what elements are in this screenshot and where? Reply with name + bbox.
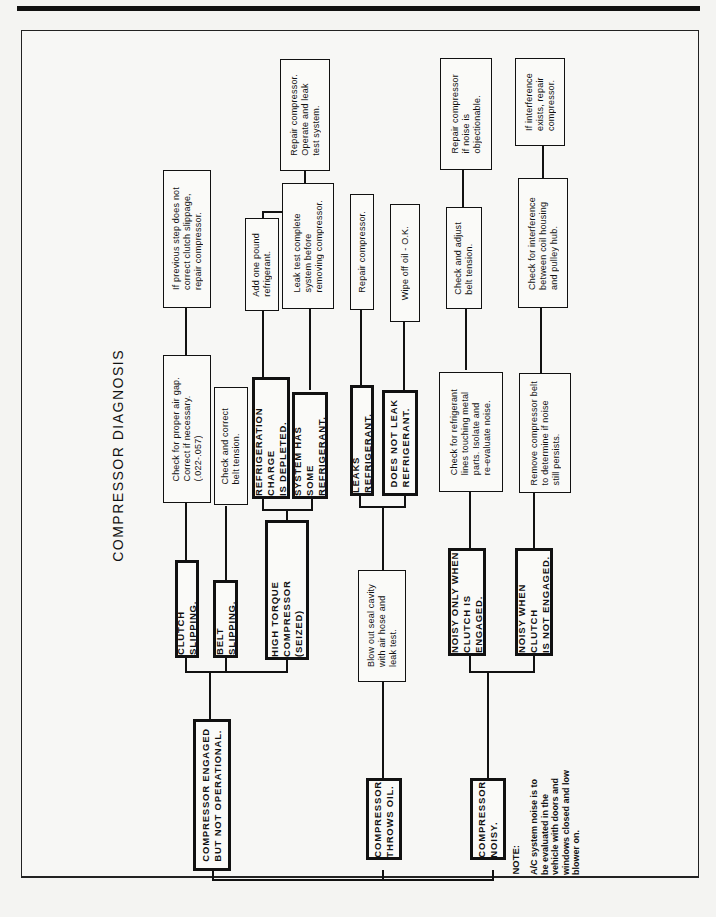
box-compressor-throws-oil: COMPRESSOR THROWS OIL. — [366, 778, 402, 860]
box-check-interference: Check for interference between coil hous… — [518, 178, 568, 308]
box-check-adjust-belt-tension: Check and adjust belt tension. — [446, 207, 482, 309]
box-remove-compressor-belt: Remove compressor belt to determine if n… — [519, 373, 571, 493]
box-add-one-pound: Add one pound refrigerant. — [245, 218, 279, 311]
box-compressor-noisy: COMPRESSOR NOISY. — [470, 778, 506, 860]
note: NOTE: A/C system noise is to be evaluate… — [510, 725, 620, 875]
box-check-correct-belt-tension: Check and correct belt tension. — [214, 387, 248, 505]
box-high-torque-compressor: HIGH TORQUE COMPRESSOR (SEIZED) — [265, 520, 309, 660]
box-repair-compressor: Repair compressor. — [350, 194, 374, 310]
box-compressor-engaged-not-operational: COMPRESSOR ENGAGED BUT NOT OPERATIONAL. — [193, 719, 231, 871]
box-leak-test-complete: Leak test complete system before removin… — [282, 183, 334, 309]
box-belt-slipping: BELT SLIPPING. — [213, 580, 238, 658]
note-text: A/C system noise is to be evaluated in t… — [529, 770, 582, 875]
box-system-has-some-refrigerant: SYSTEM HAS SOME REFRIGERANT. — [292, 392, 328, 499]
box-does-not-leak-refrigerant: DOES NOT LEAK REFRIGERANT. — [382, 390, 418, 496]
box-check-refrigerant-lines: Check for refrigerant lines touching met… — [439, 372, 503, 492]
box-clutch-slipping: CLUTCH SLIPPING. — [175, 560, 199, 658]
box-repair-if-objectionable: Repair compressor if noise is objectiona… — [440, 58, 492, 170]
box-noisy-when-not-engaged: NOISY WHEN CLUTCH IS NOT ENGAGED. — [515, 548, 553, 656]
diagram-title: COMPRESSOR DIAGNOSIS — [104, 355, 132, 555]
box-check-air-gap: Check for proper air gap. Correct if nec… — [163, 355, 211, 503]
box-wipe-off-oil: Wipe off oil - O.K. — [390, 204, 420, 322]
box-leaks-refrigerant: LEAKS REFRIGERANT. — [350, 385, 374, 496]
box-refrigeration-charge-depleted: REFRIGERATION CHARGE IS DEPLETED. — [252, 377, 290, 499]
box-if-interference-exists: If interference exists, repair compresso… — [515, 58, 565, 146]
box-blow-out-seal-cavity: Blow out seal cavity with air hose and l… — [358, 570, 406, 682]
box-previous-step: If previous step does not correct clutch… — [163, 170, 211, 308]
note-label: NOTE: — [510, 845, 521, 875]
box-noisy-only-when-engaged: NOISY ONLY WHEN CLUTCH IS ENGAGED. — [448, 548, 486, 656]
box-repair-operate-leak-test: Repair compressor. Operate and leak test… — [280, 59, 330, 171]
